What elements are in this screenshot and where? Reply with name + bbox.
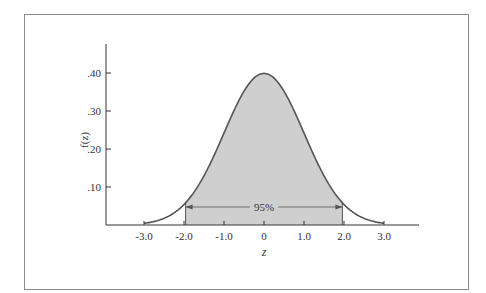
x-tick-label: -3.0 [135, 230, 153, 242]
x-tick-label: 2.0 [337, 230, 351, 242]
percent-label: 95% [254, 201, 274, 213]
x-tick-label: -2.0 [175, 230, 193, 242]
x-tick-label: 3.0 [377, 230, 391, 242]
y-tick-label: .30 [87, 105, 101, 117]
y-axis-label: f(z) [78, 132, 91, 148]
x-axis-label: z [261, 245, 267, 259]
y-tick-label: .10 [87, 181, 101, 193]
x-tick-label: -1.0 [215, 230, 233, 242]
x-tick-label: 0 [261, 230, 267, 242]
y-tick-label: .40 [87, 67, 101, 79]
normal-distribution-chart: -3.0-2.0-1.001.02.03.0 .10.20.30.40 95% … [0, 0, 486, 293]
y-ticks: .10.20.30.40 [87, 67, 111, 193]
x-tick-label: 1.0 [297, 230, 311, 242]
